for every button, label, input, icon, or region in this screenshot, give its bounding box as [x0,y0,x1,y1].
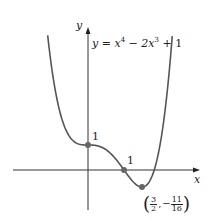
plot-area [0,0,209,219]
point-label-x-intercept: 1 [127,155,134,166]
y-axis [86,27,91,210]
function-curve [48,35,173,187]
point-x-intercept [121,167,127,173]
point-y-intercept [85,142,91,148]
equation-label: y = x4 − 2x3 + 1 [92,37,182,49]
point-label-y-intercept: 1 [92,131,99,142]
minimum-point-label: ( 3 2 , − 11 16 ) [143,195,190,213]
x-axis [13,168,200,173]
x-axis-label: x [194,174,200,185]
y-axis-label: y [76,20,82,31]
point-minimum [139,184,145,190]
